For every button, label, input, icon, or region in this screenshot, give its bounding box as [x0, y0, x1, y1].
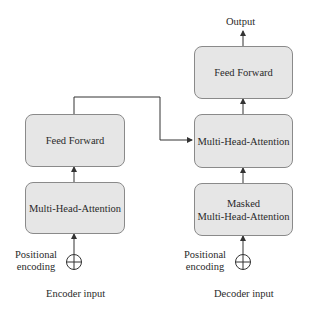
encoder-positional-encoding-label: Positional encoding	[15, 249, 57, 273]
encoder-feed-forward-label: Feed Forward	[46, 134, 105, 147]
decoder-masked-label-line2: Multi-Head-Attention	[197, 210, 289, 223]
decoder-feed-forward-box: Feed Forward	[194, 46, 293, 99]
decoder-input-label: Decoder input	[214, 288, 274, 300]
encoder-attention-box: Multi-Head-Attention	[25, 182, 125, 234]
output-label: Output	[226, 16, 255, 28]
encoder-feed-forward-box: Feed Forward	[25, 114, 125, 167]
decoder-masked-label-line1: Masked	[227, 197, 260, 210]
decoder-add-icon	[236, 255, 251, 270]
decoder-masked-attention-box: Masked Multi-Head-Attention	[194, 183, 293, 236]
decoder-positional-encoding-label: Positional encoding	[184, 249, 226, 273]
encoder-attention-label: Multi-Head-Attention	[29, 202, 121, 215]
decoder-feed-forward-label: Feed Forward	[214, 66, 273, 79]
encoder-input-label: Encoder input	[46, 288, 105, 300]
decoder-cross-attention-box: Multi-Head-Attention	[194, 114, 293, 168]
decoder-cross-attention-label: Multi-Head-Attention	[197, 135, 289, 148]
encoder-add-icon	[67, 255, 82, 270]
